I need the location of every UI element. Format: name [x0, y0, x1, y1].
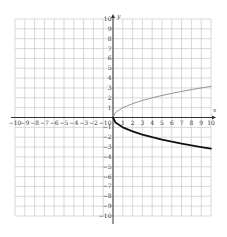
y-tick-label: −10	[99, 212, 112, 219]
y-tick-label: −5	[103, 163, 112, 170]
y-tick-label: −6	[103, 173, 112, 180]
y-tick-label: 7	[108, 45, 112, 52]
x-tick-label: 1	[121, 119, 125, 126]
y-tick-label: −3	[103, 143, 112, 150]
x-tick-label: −8	[30, 119, 39, 126]
x-tick-label: −4	[69, 119, 78, 126]
y-tick-label: 3	[108, 84, 112, 91]
x-tick-label: −6	[50, 119, 59, 126]
y-tick-label: −2	[103, 133, 112, 140]
x-tick-label: 9	[199, 119, 203, 126]
y-tick-label: −8	[103, 192, 112, 199]
x-tick-label: 7	[180, 119, 184, 126]
x-tick-label: −5	[60, 119, 69, 126]
y-tick-label: 9	[108, 25, 112, 32]
x-tick-label: −9	[20, 119, 29, 126]
y-tick-label: 1	[108, 104, 112, 111]
y-tick-label: 6	[108, 54, 112, 61]
x-tick-label: 4	[150, 119, 154, 126]
x-tick-label: 5	[160, 119, 164, 126]
x-tick-label: −3	[79, 119, 88, 126]
x-tick-label: 10	[207, 119, 215, 126]
x-tick-label: −7	[40, 119, 49, 126]
origin-label: 0	[108, 119, 112, 126]
x-tick-label: −2	[89, 119, 98, 126]
y-tick-label: 4	[108, 74, 112, 81]
y-tick-label: −4	[103, 153, 112, 160]
y-axis-label: y	[116, 12, 121, 20]
x-tick-label: 3	[140, 119, 144, 126]
x-tick-label: 6	[170, 119, 174, 126]
y-tick-label: 10	[104, 15, 112, 22]
y-tick-label: 5	[108, 64, 112, 71]
y-tick-label: 8	[108, 35, 112, 42]
x-tick-label: 8	[189, 119, 193, 126]
x-tick-label: 2	[131, 119, 135, 126]
y-tick-label: 2	[108, 94, 112, 101]
coordinate-plane: −10−9−8−7−6−5−4−3−2−11234567891010987654…	[0, 0, 227, 237]
x-axis-label: x	[213, 106, 217, 113]
y-tick-label: −7	[103, 182, 112, 189]
y-tick-label: −9	[103, 202, 112, 209]
y-axis-arrow-icon	[111, 14, 115, 18]
